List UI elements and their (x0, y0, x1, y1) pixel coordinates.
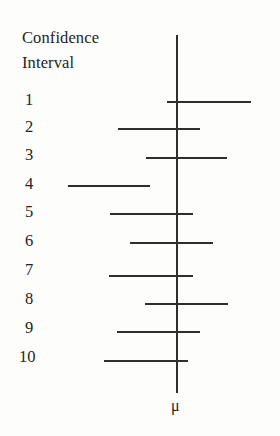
mu-axis-label: μ (171, 398, 180, 414)
confidence-interval-bar (104, 360, 188, 362)
confidence-interval-bar (68, 185, 150, 187)
confidence-interval-bar (146, 157, 227, 159)
figure-header-line-2: Interval (22, 55, 74, 72)
interval-row-label: 7 (25, 262, 33, 279)
confidence-interval-bar (117, 331, 200, 333)
interval-row-label: 8 (25, 291, 33, 308)
confidence-interval-bar (145, 303, 228, 305)
interval-row-label: 3 (25, 147, 33, 164)
interval-row-label: 2 (25, 119, 33, 136)
confidence-interval-bar (130, 242, 213, 244)
interval-row-label: 5 (25, 204, 33, 221)
interval-row-label: 4 (25, 176, 33, 193)
interval-row-label: 6 (25, 233, 33, 250)
figure-header-line-1: Confidence (22, 30, 99, 47)
confidence-interval-bar (118, 128, 200, 130)
interval-row-label: 1 (25, 92, 33, 109)
confidence-interval-bar (110, 213, 193, 215)
confidence-interval-bar (167, 101, 251, 103)
confidence-interval-figure: Confidence Interval 12345678910 μ (0, 0, 280, 436)
interval-row-label: 9 (25, 320, 33, 337)
interval-row-label: 10 (19, 349, 36, 366)
confidence-interval-bar (109, 275, 193, 277)
